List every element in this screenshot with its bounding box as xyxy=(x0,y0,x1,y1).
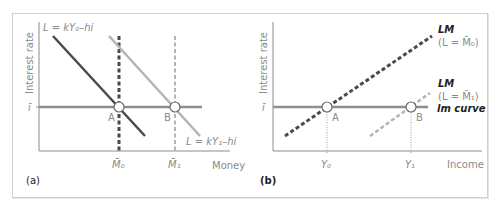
panel-a-curve-2-label: L = kY₁–hi xyxy=(186,136,237,147)
panel-b-lm-curve-m0 xyxy=(285,36,432,136)
panel-a-point-a-label: A xyxy=(108,112,115,123)
panel-a-demand-curve-y0 xyxy=(53,36,145,136)
panel-b-lm1-title: LM xyxy=(438,78,454,89)
panel-b-lm-curve-label: lm curve xyxy=(437,103,486,114)
panel-b-tag: (b) xyxy=(260,175,276,186)
panel-a: Interest rate ī L = kY₀–hi L = kY₁–hi A … xyxy=(24,22,245,186)
panel-a-curve-1-label: L = kY₀–hi xyxy=(43,22,94,33)
panel-a-x-axis-label: Money xyxy=(212,160,245,171)
panel-a-point-a-marker xyxy=(114,102,124,112)
panel-b-point-b-label: B xyxy=(416,112,423,123)
panel-a-tag: (a) xyxy=(26,175,40,186)
panel-a-demand-curve-y1 xyxy=(109,36,200,136)
panel-b-point-a-label: A xyxy=(332,112,339,123)
panel-a-i-bar-label: ī xyxy=(28,102,32,113)
panel-b-point-a-marker xyxy=(322,102,332,112)
panel-a-tick-m0: M̄₀ xyxy=(112,158,125,170)
panel-b-i-bar-label: ī xyxy=(262,102,266,113)
panel-a-tick-m1: M̄₁ xyxy=(168,158,181,170)
panel-a-point-b-label: B xyxy=(164,112,171,123)
panel-b-x-axis-label: Income xyxy=(447,159,484,170)
panel-a-point-b-marker xyxy=(170,102,180,112)
panel-b: Interest rate ī LM (L = M̄₀) LM (L = M̄₁… xyxy=(258,22,486,186)
panel-b-lm0-sub: (L = M̄₀) xyxy=(438,36,479,48)
figure-canvas: Interest rate ī L = kY₀–hi L = kY₁–hi A … xyxy=(0,0,496,208)
panel-b-tick-y1: Y₁ xyxy=(405,159,415,170)
panel-b-lm1-sub: (L = M̄₁) xyxy=(438,90,479,102)
panel-b-tick-y0: Y₀ xyxy=(321,159,331,170)
panel-b-y-axis-label: Interest rate xyxy=(258,32,269,94)
panel-b-lm0-title: LM xyxy=(438,24,454,35)
panel-b-point-b-marker xyxy=(406,102,416,112)
panel-a-y-axis-label: Interest rate xyxy=(24,32,35,94)
